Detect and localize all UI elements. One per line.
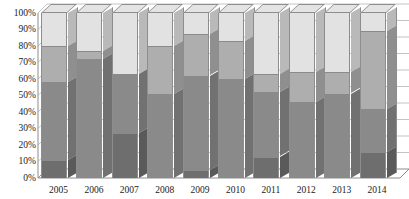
bar-segment[interactable] — [289, 72, 315, 102]
bar-2009[interactable] — [183, 13, 209, 178]
bar-segment[interactable] — [112, 133, 138, 178]
bar-2008[interactable] — [147, 13, 173, 178]
segment-divider — [254, 157, 278, 158]
segment-divider — [77, 51, 101, 52]
bar-segment[interactable] — [324, 72, 350, 93]
bar-segment[interactable] — [324, 13, 350, 72]
bar-2007[interactable] — [112, 13, 138, 178]
x-tick-label: 2014 — [355, 185, 399, 195]
y-tick-label: 10% — [19, 157, 36, 166]
bar-segment[interactable] — [41, 46, 67, 82]
segment-divider — [219, 79, 243, 80]
bar-segment[interactable] — [324, 94, 350, 178]
bar-segment[interactable] — [112, 13, 138, 74]
segment-divider — [361, 31, 385, 32]
segment-divider — [254, 92, 278, 93]
bar-segment[interactable] — [218, 41, 244, 79]
bar-segment[interactable] — [289, 102, 315, 178]
segment-divider — [148, 94, 172, 95]
bar-2006[interactable] — [76, 13, 102, 178]
segment-divider — [77, 59, 101, 60]
bar-segment[interactable] — [253, 74, 279, 92]
y-tick-label: 80% — [19, 42, 36, 51]
y-axis: 100% 90% 80% 70% 60% 50% 40% 30% 20% 10%… — [0, 0, 36, 199]
bar-2010[interactable] — [218, 13, 244, 178]
segment-divider — [325, 72, 349, 73]
bar-segment[interactable] — [218, 79, 244, 178]
y-tick-label: 60% — [19, 75, 36, 84]
segment-divider — [290, 102, 314, 103]
y-tick-label: 30% — [19, 124, 36, 133]
segment-divider — [42, 82, 66, 83]
bar-2013[interactable] — [324, 13, 350, 178]
bar-segment[interactable] — [76, 59, 102, 178]
bar-segment[interactable] — [147, 94, 173, 178]
bar-segment[interactable] — [360, 109, 386, 152]
bar-segment[interactable] — [360, 13, 386, 31]
segment-divider — [42, 160, 66, 161]
segment-divider — [219, 41, 243, 42]
bar-2012[interactable] — [289, 13, 315, 178]
bar-segment-side — [387, 103, 397, 152]
bar-segment[interactable] — [253, 13, 279, 74]
y-tick-label: 100% — [14, 9, 36, 18]
bar-segment[interactable] — [360, 152, 386, 178]
bar-segment[interactable] — [289, 13, 315, 72]
segment-divider — [325, 94, 349, 95]
bar-segment[interactable] — [253, 157, 279, 178]
y-tick-label: 70% — [19, 58, 36, 67]
bar-segment[interactable] — [183, 34, 209, 75]
bar-segment[interactable] — [76, 13, 102, 51]
segment-divider — [184, 34, 208, 35]
bar-segment[interactable] — [41, 82, 67, 160]
y-tick-label: 50% — [19, 91, 36, 100]
bar-2014[interactable] — [360, 13, 386, 178]
bar-segment[interactable] — [147, 13, 173, 46]
x-axis: 2005200620072008200920102011201220132014 — [0, 181, 409, 199]
bar-segment[interactable] — [183, 76, 209, 170]
segment-divider — [113, 74, 137, 75]
segment-divider — [148, 46, 172, 47]
bar-segment-side — [387, 146, 397, 178]
bar-segment[interactable] — [41, 13, 67, 46]
bar-segment[interactable] — [147, 46, 173, 94]
y-tick-label: 40% — [19, 108, 36, 117]
y-tick-label: 90% — [19, 25, 36, 34]
y-tick-label: 20% — [19, 141, 36, 150]
segment-divider — [361, 152, 385, 153]
bar-segment[interactable] — [218, 13, 244, 41]
segment-divider — [184, 76, 208, 77]
segment-divider — [254, 74, 278, 75]
segment-divider — [290, 72, 314, 73]
segment-divider — [361, 109, 385, 110]
bar-segment[interactable] — [41, 160, 67, 178]
bar-segment[interactable] — [183, 170, 209, 178]
bar-segment[interactable] — [360, 31, 386, 109]
bar-segment[interactable] — [112, 74, 138, 133]
segment-divider — [184, 170, 208, 171]
segment-divider — [42, 46, 66, 47]
bar-segment[interactable] — [76, 51, 102, 59]
bar-segment-side — [387, 25, 397, 108]
bar-segment[interactable] — [183, 13, 209, 34]
bar-2011[interactable] — [253, 13, 279, 178]
bar-segment[interactable] — [253, 92, 279, 156]
bar-2005[interactable] — [41, 13, 67, 178]
stacked-bar-chart: 100% 90% 80% 70% 60% 50% 40% 30% 20% 10%… — [0, 0, 409, 199]
segment-divider — [113, 133, 137, 134]
